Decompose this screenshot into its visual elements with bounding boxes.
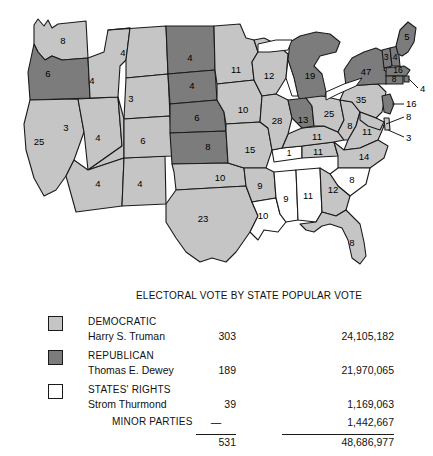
vote-label-ID: 4: [89, 75, 94, 86]
state-oklahoma: [172, 163, 246, 190]
vote-label-MT: 4: [120, 47, 125, 58]
legend-row-totals: 531 48,686,977: [0, 432, 433, 450]
popular-total: 48,686,977: [282, 434, 394, 448]
state-texas: [166, 186, 258, 262]
vote-label-NC: 14: [359, 151, 370, 162]
swatch-republican: [48, 350, 63, 365]
vote-label-ND: 4: [187, 52, 192, 63]
state-new-mexico: [122, 156, 166, 206]
vote-label-OR: 6: [45, 68, 50, 79]
vote-label-CT-inset: 8: [392, 74, 397, 84]
electoral-value-minor-parties: —: [196, 416, 236, 428]
state-idaho: [88, 28, 130, 98]
vote-label-IA: 10: [238, 104, 249, 115]
party-name-democratic: DEMOCRATIC: [88, 316, 156, 327]
electoral-value-democratic: 303: [196, 330, 236, 342]
vote-label-GA: 12: [328, 184, 339, 195]
vote-label-KY: 11: [312, 131, 322, 142]
vote-label-CO: 6: [140, 135, 145, 146]
candidate-name-thurmond: Strom Thurmond: [88, 398, 167, 410]
popular-value-minor-parties: 1,442,667: [282, 416, 394, 428]
vote-label-IN: 13: [298, 114, 309, 125]
state-colorado: [124, 116, 172, 158]
electoral-value-states-rights: 39: [196, 398, 236, 410]
leader-line-delaware: [388, 130, 404, 137]
vote-label-ME: 5: [404, 31, 409, 42]
vote-label-NH: 4: [393, 52, 398, 62]
popular-value-democratic: 24,105,182: [282, 330, 394, 342]
vote-label-CA: 25: [34, 136, 45, 147]
popular-value-republican: 21,970,065: [282, 364, 394, 376]
vote-label-KS: 8: [205, 141, 210, 152]
vote-label-SD: 4: [189, 80, 194, 91]
callout-label-new-jersey: 16: [406, 98, 417, 109]
vote-label-PA: 35: [356, 94, 367, 105]
vote-label-VA: 11: [362, 126, 372, 137]
electoral-total: 531: [196, 434, 236, 448]
vote-label-TN-split: 1: [287, 148, 292, 158]
state-kansas: [170, 131, 228, 164]
swatch-democratic: [48, 316, 63, 331]
vote-label-AZ: 4: [95, 178, 100, 189]
vote-label-AL: 11: [303, 190, 313, 201]
electoral-value-republican: 189: [196, 364, 236, 376]
vote-label-IL: 28: [272, 115, 283, 126]
state-rhode-island: [404, 76, 409, 82]
vote-label-UT: 4: [95, 132, 100, 143]
state-minnesota: [214, 24, 258, 84]
leader-line-rhode-island: [409, 79, 418, 88]
party-name-states-rights: STATES' RIGHTS: [88, 384, 171, 395]
header-electoral-vote: ELECTORAL VOTE BY STATE: [136, 290, 279, 301]
vote-label-WI: 12: [264, 70, 275, 81]
callout-label-maryland: 8: [406, 111, 411, 122]
legend-row-republican: REPUBLICAN Thomas E. Dewey 189 21,970,06…: [0, 350, 433, 384]
legend-row-democratic: DEMOCRATIC Harry S. Truman 303 24,105,18…: [0, 316, 433, 350]
vote-label-MN: 11: [231, 64, 241, 75]
results-legend: ELECTORAL VOTE BY STATE POPULAR VOTE DEM…: [0, 286, 433, 456]
legend-row-states-rights: STATES' RIGHTS Strom Thurmond 39 1,169,0…: [0, 384, 433, 418]
vote-label-OH: 25: [324, 108, 335, 119]
vote-label-LA: 10: [258, 210, 269, 221]
vote-label-WV: 8: [347, 120, 352, 131]
vote-label-MO: 15: [245, 144, 256, 155]
party-name-republican: REPUBLICAN: [88, 350, 154, 361]
vote-label-OK: 10: [215, 172, 226, 183]
state-north-dakota: [166, 26, 215, 74]
vote-label-WA: 8: [60, 35, 65, 46]
party-name-minor-parties: MINOR PARTIES: [112, 416, 193, 427]
electoral-map: 8 6 25 3 4 4 3 4 4 4 6 4 4 6 8 10 23 11 …: [0, 0, 433, 280]
vote-label-NM: 4: [137, 178, 142, 189]
vote-label-AR: 9: [257, 180, 262, 191]
vote-label-MS: 9: [283, 193, 288, 204]
callout-label-rhode-island: 4: [420, 83, 425, 94]
vote-label-MI: 19: [305, 70, 316, 81]
vote-label-SC: 8: [349, 174, 354, 185]
vote-label-NY: 47: [361, 66, 372, 77]
swatch-states-rights: [48, 384, 63, 399]
popular-value-states-rights: 1,169,063: [282, 398, 394, 410]
candidate-name-truman: Harry S. Truman: [88, 330, 165, 342]
map-svg: 8 6 25 3 4 4 3 4 4 4 6 4 4 6 8 10 23 11 …: [0, 0, 433, 280]
vote-label-VT: 3: [384, 52, 389, 62]
vote-label-NV: 3: [63, 122, 68, 133]
vote-label-WY: 3: [128, 93, 133, 104]
vote-label-FL: 8: [349, 237, 354, 248]
vote-label-TX: 23: [198, 213, 209, 224]
header-popular-vote: POPULAR VOTE: [282, 290, 362, 301]
candidate-name-dewey: Thomas E. Dewey: [88, 364, 174, 376]
vote-label-TN: 11: [313, 146, 323, 157]
vote-label-NE: 6: [194, 112, 199, 123]
callout-label-delaware: 3: [406, 132, 411, 143]
